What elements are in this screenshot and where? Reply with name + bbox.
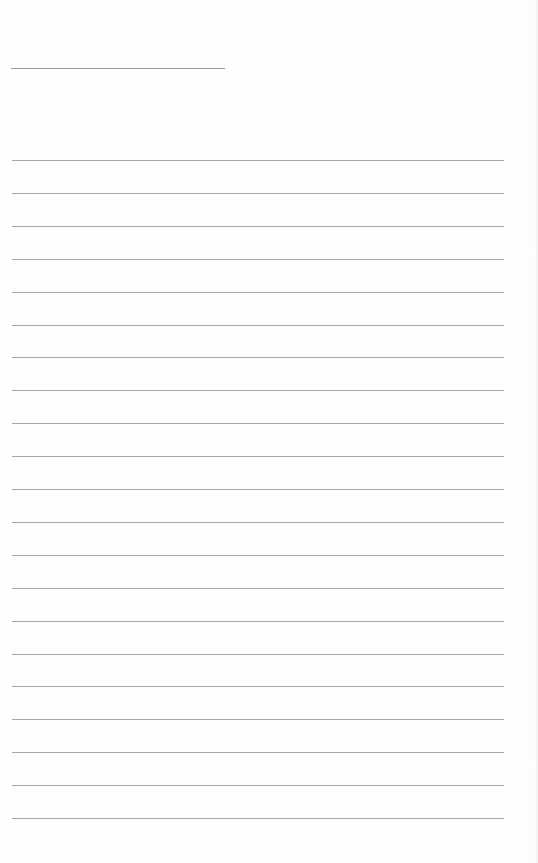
writing-line xyxy=(12,654,504,655)
writing-line xyxy=(12,522,504,523)
writing-line xyxy=(12,752,504,753)
writing-line xyxy=(12,357,504,358)
title-rule xyxy=(11,68,225,69)
writing-line xyxy=(12,588,504,589)
writing-line xyxy=(12,785,504,786)
writing-line xyxy=(12,818,504,819)
writing-line xyxy=(12,390,504,391)
writing-line xyxy=(12,719,504,720)
writing-line xyxy=(12,686,504,687)
writing-line xyxy=(12,456,504,457)
writing-line xyxy=(12,193,504,194)
writing-line xyxy=(12,621,504,622)
lined-paper-page xyxy=(0,0,538,863)
writing-line xyxy=(12,160,504,161)
writing-line xyxy=(12,325,504,326)
writing-line xyxy=(12,226,504,227)
writing-line xyxy=(12,489,504,490)
page-edge-shadow xyxy=(534,0,538,863)
writing-line xyxy=(12,292,504,293)
writing-line xyxy=(12,555,504,556)
writing-line xyxy=(12,423,504,424)
writing-line xyxy=(12,259,504,260)
